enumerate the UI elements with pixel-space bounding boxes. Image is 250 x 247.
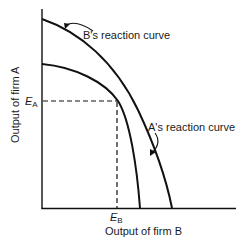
b-reaction-curve-label: B's reaction curve: [83, 29, 170, 41]
reaction-curve-diagram: B's reaction curve A's reaction curve EA…: [0, 0, 250, 247]
ea-marker: EA: [25, 95, 38, 109]
eb-marker: EB: [110, 211, 123, 225]
b-label-arrowhead: [64, 23, 70, 29]
x-axis-label: Output of firm B: [105, 225, 182, 237]
a-reaction-curve-label: A's reaction curve: [148, 121, 235, 133]
y-axis-label: Output of firm A: [9, 66, 21, 143]
b-reaction-curve: [42, 19, 172, 208]
